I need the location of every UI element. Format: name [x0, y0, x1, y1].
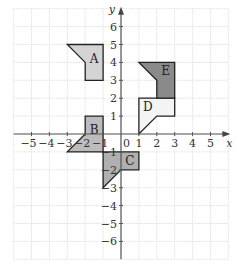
y-tick-label: 2	[110, 92, 117, 105]
x-tick-label: 3	[171, 137, 178, 150]
y-tick-label: 6	[110, 21, 117, 34]
x-tick-label: 2	[153, 137, 160, 150]
y-tick-label: −6	[101, 235, 117, 248]
y-tick-label: 5	[110, 39, 117, 52]
y-tick-label: −1	[101, 146, 117, 159]
y-tick-label: −2	[101, 164, 117, 177]
origin-label: 0	[123, 137, 130, 150]
y-tick-label: 3	[110, 74, 117, 87]
x-tick-label: −5	[20, 137, 36, 150]
shape-d: D	[139, 98, 175, 134]
x-axis-label: x	[226, 137, 233, 150]
shape-c-label: C	[125, 154, 134, 168]
shape-e-label: E	[161, 64, 170, 78]
tick-labels: −5−4−3−2−112345654321−1−2−3−4−5−60xy	[20, 3, 233, 249]
x-tick-label: −2	[74, 137, 90, 150]
y-axis-label: y	[108, 3, 116, 16]
x-tick-label: 1	[135, 137, 142, 150]
x-tick-label: 5	[207, 137, 214, 150]
y-tick-label: −4	[101, 200, 117, 213]
y-axis-arrow-icon	[118, 7, 124, 15]
y-tick-label: −3	[101, 182, 117, 195]
y-tick-label: 4	[110, 56, 117, 69]
x-tick-label: −4	[38, 137, 54, 150]
y-tick-label: 1	[110, 110, 117, 123]
shape-d-label: D	[143, 100, 153, 114]
x-tick-label: −3	[56, 137, 72, 150]
y-tick-label: −5	[101, 218, 117, 231]
x-tick-label: 4	[189, 137, 196, 150]
shape-a: A	[67, 45, 103, 81]
shape-a-label: A	[89, 52, 99, 66]
coordinate-grid-diagram: ABCDE −5−4−3−2−112345654321−1−2−3−4−5−60…	[0, 0, 237, 270]
shape-b-label: B	[90, 123, 99, 137]
